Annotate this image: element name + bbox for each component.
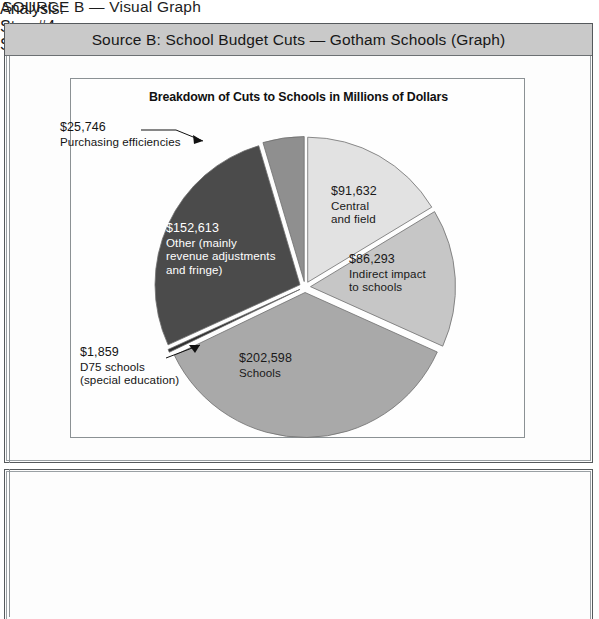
pie-label-indirect-impact-to-schools: $86,293 Indirect impact to schools bbox=[349, 252, 426, 294]
page-caption: SOURCE B — Visual Graph bbox=[2, 0, 201, 16]
pie-label-d75-schools: $1,859 D75 schools (special education) bbox=[80, 345, 179, 387]
pie-label-amount: $25,746 bbox=[60, 120, 181, 135]
pie-label-name: Purchasing efficiencies bbox=[60, 135, 181, 149]
pie-label-name-line1: Indirect impact bbox=[349, 267, 426, 281]
pie-label-name-line1: D75 schools bbox=[80, 360, 179, 374]
chart-title: Breakdown of Cuts to Schools in Millions… bbox=[71, 90, 526, 104]
pie-label-amount: $152,613 bbox=[166, 221, 276, 236]
source-box-left-rule bbox=[9, 23, 10, 463]
pie-label-name-line1: Central bbox=[331, 199, 377, 213]
pie-label-name: Schools bbox=[239, 366, 292, 380]
pie-label-amount: $1,859 bbox=[80, 345, 179, 360]
pie-label-name-line2: revenue adjustments bbox=[166, 249, 276, 263]
pie-label-amount: $86,293 bbox=[349, 252, 426, 267]
source-title-band: Source B: School Budget Cuts — Gotham Sc… bbox=[5, 24, 592, 56]
pie-label-name-line2: (special education) bbox=[80, 373, 179, 387]
pie-label-schools: $202,598 Schools bbox=[239, 351, 292, 379]
analysis-panel-left-rule bbox=[9, 469, 10, 617]
analysis-panel bbox=[4, 469, 593, 619]
pie-label-name-line2: and field bbox=[331, 212, 377, 226]
pie-label-purchasing-efficiencies: $25,746 Purchasing efficiencies bbox=[60, 120, 181, 148]
pie-label-central-and-field: $91,632 Central and field bbox=[331, 184, 377, 226]
pie-label-amount: $202,598 bbox=[239, 351, 292, 366]
source-title: Source B: School Budget Cuts — Gotham Sc… bbox=[92, 31, 506, 49]
pie-label-name-line2: to schools bbox=[349, 280, 426, 294]
pie-label-name-line3: and fringe) bbox=[166, 263, 276, 277]
pie-label-name-line1: Other (mainly bbox=[166, 236, 276, 250]
pie-label-other: $152,613 Other (mainly revenue adjustmen… bbox=[166, 221, 276, 276]
pie-label-amount: $91,632 bbox=[331, 184, 377, 199]
